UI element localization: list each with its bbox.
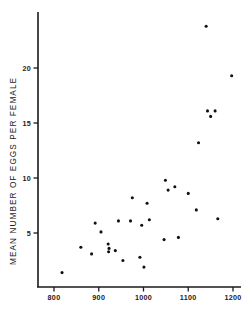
y-tick-label: 10 bbox=[22, 174, 31, 183]
axes-group bbox=[37, 12, 241, 287]
data-point bbox=[107, 250, 110, 253]
data-point bbox=[216, 217, 219, 220]
data-point bbox=[107, 247, 110, 250]
data-point bbox=[163, 238, 166, 241]
scatter-plot-figure: 800900100011001200 5101520 MEAN NUMBER O… bbox=[0, 0, 249, 311]
data-point bbox=[214, 109, 217, 112]
data-point bbox=[138, 256, 141, 259]
data-point bbox=[129, 219, 132, 222]
data-point bbox=[99, 230, 102, 233]
x-tick-label: 1200 bbox=[224, 293, 241, 302]
data-point bbox=[197, 141, 200, 144]
data-point bbox=[230, 74, 233, 77]
y-tick-label: 15 bbox=[22, 119, 31, 128]
data-point bbox=[167, 189, 170, 192]
data-point bbox=[148, 218, 151, 221]
x-axis-ticks: 800900100011001200 bbox=[48, 287, 242, 302]
data-point bbox=[140, 224, 143, 227]
data-point bbox=[177, 236, 180, 239]
data-point bbox=[131, 196, 134, 199]
data-point bbox=[90, 252, 93, 255]
data-point bbox=[195, 208, 198, 211]
data-point bbox=[173, 185, 176, 188]
x-tick-label: 900 bbox=[92, 293, 105, 302]
data-point bbox=[94, 222, 97, 225]
data-point bbox=[61, 271, 64, 274]
y-tick-label: 20 bbox=[22, 64, 31, 73]
x-tick-label: 1100 bbox=[180, 293, 197, 302]
data-point bbox=[206, 109, 209, 112]
data-point bbox=[146, 202, 149, 205]
x-tick-label: 800 bbox=[48, 293, 61, 302]
x-tick-label: 1000 bbox=[135, 293, 152, 302]
data-point bbox=[142, 266, 145, 269]
plot-canvas: 800900100011001200 5101520 MEAN NUMBER O… bbox=[0, 0, 249, 311]
y-axis-ticks: 5101520 bbox=[22, 64, 38, 238]
data-point bbox=[209, 115, 212, 118]
y-axis-label: MEAN NUMBER OF EGGS PER FEMALE bbox=[9, 77, 18, 265]
data-point bbox=[164, 179, 167, 182]
data-points-group bbox=[61, 25, 234, 275]
data-point bbox=[187, 192, 190, 195]
data-point bbox=[107, 242, 110, 245]
data-point bbox=[114, 249, 117, 252]
data-point bbox=[117, 219, 120, 222]
y-tick-label: 5 bbox=[27, 229, 31, 238]
data-point bbox=[121, 259, 124, 262]
data-point bbox=[79, 246, 82, 249]
data-point bbox=[205, 25, 208, 28]
